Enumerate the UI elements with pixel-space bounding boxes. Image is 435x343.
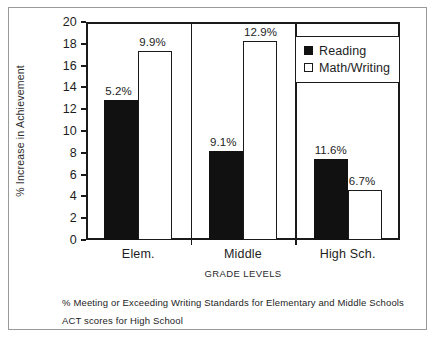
legend-swatch-filled-icon: [304, 46, 313, 55]
footnote-line-1: % Meeting or Exceeding Writing Standards…: [62, 297, 404, 308]
chart-figure: % Increase in Achievement 20181614121086…: [0, 0, 435, 343]
x-axis-title: GRADE LEVELS: [86, 268, 400, 279]
bar-math-writing-elem-: [138, 51, 172, 240]
y-tick-label: 10: [63, 123, 77, 139]
bar-reading-middle: [209, 151, 243, 240]
y-tick-label: 12: [63, 101, 77, 117]
y-tick-label: 20: [63, 14, 77, 30]
y-tick-label: 0: [70, 232, 77, 248]
footnote-line-2: ACT scores for High School: [62, 315, 183, 326]
bar-value-label: 9.9%: [139, 36, 166, 49]
bar-value-label: 9.1%: [210, 136, 237, 149]
bar-value-label: 11.6%: [315, 144, 347, 157]
group-separator: [191, 22, 193, 240]
y-tick-label: 14: [63, 79, 77, 95]
x-category-label: Elem.: [86, 247, 191, 261]
y-tick-label: 16: [63, 58, 77, 74]
bar-value-label: 12.9%: [244, 26, 277, 39]
y-tick-label: 4: [70, 188, 77, 204]
x-tick-mark: [295, 240, 297, 245]
bar-math-writing-high-sch-: [348, 190, 382, 240]
y-tick-label: 6: [70, 167, 77, 183]
y-axis: 20181614121086420: [0, 22, 86, 240]
legend-swatch-hollow-icon: [304, 63, 313, 72]
legend-item-math-writing: Math/Writing: [304, 59, 390, 76]
x-tick-mark: [191, 240, 193, 245]
y-tick-label: 2: [70, 210, 77, 226]
legend-label-reading: Reading: [319, 44, 366, 58]
bar-value-label: 6.7%: [349, 175, 376, 188]
x-category-label: High Sch.: [295, 247, 400, 261]
x-category-label: Middle: [191, 247, 296, 261]
bar-math-writing-middle: [243, 41, 277, 240]
y-tick-label: 18: [63, 36, 77, 52]
bar-value-label: 5.2%: [105, 85, 132, 98]
bar-reading-elem-: [104, 100, 138, 240]
chart-legend: Reading Math/Writing: [295, 36, 400, 83]
y-tick-label: 8: [70, 145, 77, 161]
legend-label-math-writing: Math/Writing: [319, 61, 390, 75]
bar-reading-high-sch-: [314, 159, 348, 240]
legend-item-reading: Reading: [304, 42, 390, 59]
